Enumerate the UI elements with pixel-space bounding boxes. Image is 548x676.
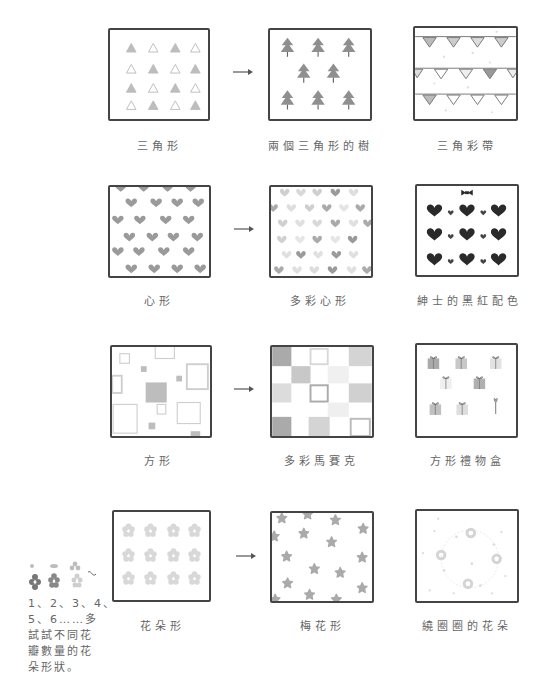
label-flower: 花朵形 [140, 617, 185, 633]
label-square: 方形 [144, 452, 174, 468]
pattern-flower [112, 510, 211, 602]
heart-bow-icon [417, 186, 517, 275]
label-triangle: 三角形 [137, 137, 182, 153]
pattern-plum-blossom [270, 511, 374, 603]
label-multicolor-heart: 多彩心形 [290, 292, 350, 308]
label-flower-ring: 繞圈圈的花朵 [422, 617, 512, 633]
side-note-line: 朵形狀。 [28, 660, 108, 676]
tree-icon [270, 30, 370, 119]
label-tree: 兩個三角形的樹 [268, 137, 373, 153]
pattern-flower-ring [415, 509, 519, 603]
pattern-heart [108, 185, 211, 278]
side-note-line: 5、6……多 [28, 612, 108, 628]
pattern-square [110, 345, 212, 438]
flower-steps-icon [26, 560, 96, 594]
arrow-icon [234, 225, 254, 233]
flower-ring-icon [417, 511, 517, 601]
pattern-mosaic [270, 345, 374, 438]
label-gentleman-heart: 紳士的黑紅配色 [417, 292, 522, 308]
pattern-multicolor-heart [269, 185, 373, 278]
arrow-icon [236, 552, 256, 560]
square-icon [112, 347, 210, 436]
label-bunting: 三角彩帶 [437, 137, 497, 153]
bunting-icon [415, 28, 516, 119]
pattern-bunting [413, 26, 518, 121]
heart-icon [271, 187, 371, 276]
label-plum-blossom: 梅花形 [300, 617, 345, 633]
bow-icon [461, 190, 472, 196]
plum-blossom-icon [272, 513, 372, 601]
mosaic-icon [272, 347, 372, 436]
side-note-line: 瓣數量的花 [28, 644, 108, 660]
pattern-triangle [108, 28, 210, 121]
heart-icon [110, 187, 209, 276]
label-heart: 心形 [144, 292, 174, 308]
side-note: 1、2、3、4、 5、6……多 試試不同花 瓣數量的花 朵形狀。 [28, 560, 108, 676]
side-note-line: 1、2、3、4、 [28, 596, 108, 612]
triangle-icon [110, 30, 208, 119]
flower-icon [114, 512, 209, 600]
pattern-gentleman-heart [415, 184, 519, 277]
arrow-icon [233, 68, 253, 76]
pattern-tree [268, 28, 372, 121]
label-mosaic: 多彩馬賽克 [284, 452, 359, 468]
pattern-gift-box [415, 343, 518, 438]
side-note-line: 試試不同花 [28, 628, 108, 644]
gift-box-icon [417, 345, 516, 436]
balloon-icon [494, 398, 497, 413]
arrow-icon [234, 385, 254, 393]
label-gift-box: 方形禮物盒 [430, 452, 505, 468]
